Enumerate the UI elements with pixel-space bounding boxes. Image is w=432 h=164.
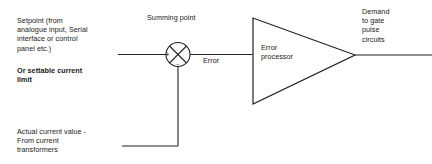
setpoint-source-label: Setpoint (from analogue input, Serial in…: [17, 16, 88, 53]
settable-current-limit-label: Or settable current limit: [17, 66, 82, 84]
actual-current-value-label: Actual current value - From current tran…: [17, 127, 86, 155]
error-signal-label: Error: [203, 56, 219, 65]
summing-point-label: Summing point: [147, 13, 196, 22]
error-processor-label: Error processor: [261, 43, 293, 61]
block-diagram: Setpoint (from analogue input, Serial in…: [0, 0, 432, 164]
summing-point-minus-sign: -: [177, 60, 179, 67]
demand-to-gate-pulse-circuits-label: Demand to gate pulse circuits: [362, 7, 389, 44]
summing-point-plus-sign: +: [166, 51, 170, 58]
